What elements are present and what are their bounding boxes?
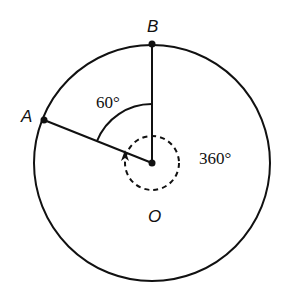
- label-60-degrees: 60°: [96, 93, 120, 112]
- label-B: B: [147, 17, 158, 36]
- point-A-dot: [41, 117, 48, 124]
- point-B-dot: [149, 41, 156, 48]
- label-A: A: [20, 107, 32, 126]
- label-360-degrees: 360°: [199, 149, 231, 168]
- point-O-dot: [149, 160, 156, 167]
- angle-diagram: B A O 60° 360°: [0, 0, 282, 303]
- label-O: O: [148, 207, 161, 226]
